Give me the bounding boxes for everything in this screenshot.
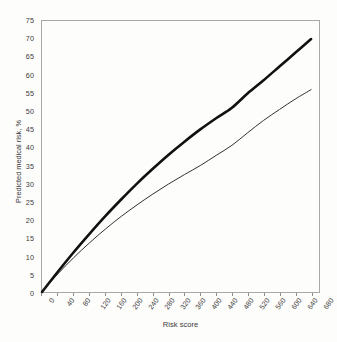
y-tick-label: 5 <box>30 270 34 279</box>
x-tick-label: 120 <box>98 296 112 311</box>
y-tick-label: 45 <box>26 125 34 134</box>
x-tick-mark <box>280 293 281 296</box>
chart-figure: 051015202530354045505560657075 Predicted… <box>0 0 337 342</box>
curve-lower-curve <box>42 90 311 292</box>
x-tick-mark <box>248 293 249 296</box>
x-tick-mark <box>41 293 42 296</box>
x-axis-ticklabels: 0408012016020024028032036040044048052056… <box>0 293 337 323</box>
plot-area <box>41 20 320 293</box>
x-tick-label: 440 <box>226 296 240 311</box>
x-tick-label: 40 <box>64 296 76 308</box>
x-tick-mark <box>264 293 265 296</box>
x-tick-label: 640 <box>305 296 319 311</box>
y-tick-label: 10 <box>26 252 34 261</box>
x-tick-mark <box>184 293 185 296</box>
y-tick-label: 65 <box>26 52 34 61</box>
x-tick-label: 600 <box>289 296 303 311</box>
y-tick-label: 40 <box>26 143 34 152</box>
x-tick-label: 0 <box>47 296 57 305</box>
x-tick-mark <box>169 293 170 296</box>
x-tick-label: 160 <box>114 296 128 311</box>
y-tick-label: 70 <box>26 34 34 43</box>
x-tick-label: 280 <box>162 296 176 311</box>
y-tick-label: 60 <box>26 70 34 79</box>
x-tick-label: 520 <box>257 296 271 311</box>
x-tick-mark <box>153 293 154 296</box>
x-tick-mark <box>232 293 233 296</box>
y-tick-label: 75 <box>26 16 34 25</box>
y-tick-label: 50 <box>26 107 34 116</box>
x-tick-mark <box>73 293 74 296</box>
x-tick-label: 680 <box>321 296 335 311</box>
x-tick-mark <box>89 293 90 296</box>
y-tick-label: 15 <box>26 234 34 243</box>
y-tick-label: 35 <box>26 161 34 170</box>
x-tick-label: 320 <box>178 296 192 311</box>
x-tick-label: 400 <box>210 296 224 311</box>
x-tick-label: 480 <box>242 296 256 311</box>
y-tick-label: 30 <box>26 179 34 188</box>
x-tick-label: 560 <box>273 296 287 311</box>
x-tick-mark <box>296 293 297 296</box>
x-tick-mark <box>312 293 313 296</box>
y-axis-title: Predicted medical risk, % <box>14 87 23 237</box>
y-tick-label: 20 <box>26 216 34 225</box>
y-tick-label: 55 <box>26 88 34 97</box>
x-tick-mark <box>216 293 217 296</box>
x-tick-mark <box>105 293 106 296</box>
x-tick-label: 360 <box>194 296 208 311</box>
x-axis-title: Risk score <box>41 320 320 329</box>
x-tick-label: 80 <box>80 296 92 308</box>
curve-upper-curve <box>42 39 311 292</box>
x-tick-mark <box>200 293 201 296</box>
y-tick-label: 25 <box>26 198 34 207</box>
x-tick-mark <box>137 293 138 296</box>
x-tick-mark <box>57 293 58 296</box>
curves-svg <box>42 21 319 292</box>
x-tick-label: 240 <box>146 296 160 311</box>
x-tick-mark <box>121 293 122 296</box>
x-tick-label: 200 <box>130 296 144 311</box>
